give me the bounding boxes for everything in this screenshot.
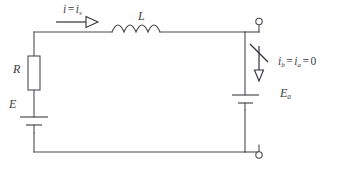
label-current-top-sub2: s	[79, 9, 82, 17]
circuit-schematic-svg	[0, 0, 339, 170]
label-source-right-sub: a	[287, 92, 291, 101]
current-arrow-top-head	[86, 17, 98, 28]
current-arrow-right-head	[255, 70, 264, 81]
label-current-top-equals: =	[66, 3, 76, 15]
label-source-left: E	[9, 98, 16, 110]
label-current-top: i=is	[63, 4, 82, 17]
label-resistor: R	[13, 63, 20, 75]
circuit-diagram: i=is L R E ib=ia=0 Ea	[0, 0, 339, 170]
label-current-right-equals1: =	[285, 55, 295, 67]
inductor-coils	[112, 25, 160, 32]
label-source-right: Ea	[280, 87, 291, 100]
resistor-body	[28, 56, 40, 90]
label-current-right-value: 0	[311, 55, 317, 67]
terminal-top-icon	[256, 18, 262, 24]
terminal-bottom-icon	[256, 152, 262, 158]
label-inductor: L	[138, 10, 145, 22]
label-current-right: ib=ia=0	[278, 56, 316, 69]
label-current-right-equals2: =	[301, 55, 311, 67]
